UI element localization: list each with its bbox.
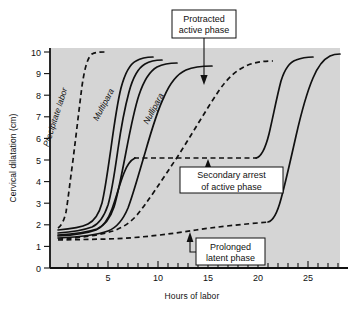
x-tick-label-20: 20 bbox=[253, 273, 263, 283]
cervical-dilatation-chart: 10 9 8 7 6 5 4 3 2 1 0 5 10 15 20 25 Hou… bbox=[0, 0, 361, 312]
y-tick-label-4: 4 bbox=[36, 177, 41, 187]
prolonged-label-line1: Prolonged bbox=[210, 242, 251, 252]
y-tick-label-8: 8 bbox=[36, 91, 41, 101]
y-axis-title: Cervical dilatation (cm) bbox=[8, 114, 18, 203]
x-tick-label-10: 10 bbox=[153, 273, 163, 283]
protracted-label-line1: Protracted bbox=[183, 14, 225, 24]
x-tick-label-5: 5 bbox=[105, 273, 110, 283]
y-tick-label-3: 3 bbox=[36, 199, 41, 209]
y-tick-label-1: 1 bbox=[36, 242, 41, 252]
y-tick-label-0: 0 bbox=[36, 264, 41, 274]
y-tick-label-9: 9 bbox=[36, 69, 41, 79]
y-tick-label-5: 5 bbox=[36, 156, 41, 166]
x-axis-title: Hours of labor bbox=[165, 291, 220, 301]
prolonged-label-line2: latent phase bbox=[206, 253, 255, 263]
protracted-label-line2: active phase bbox=[179, 25, 230, 35]
y-tick-label-7: 7 bbox=[36, 112, 41, 122]
secondary-label-line1: Secondary arrest bbox=[197, 170, 266, 180]
x-tick-label-25: 25 bbox=[303, 273, 313, 283]
secondary-label-line2: of active phase bbox=[201, 182, 262, 192]
y-tick-label-6: 6 bbox=[36, 134, 41, 144]
y-tick-label-2: 2 bbox=[36, 220, 41, 230]
x-tick-label-15: 15 bbox=[203, 273, 213, 283]
y-tick-label-10: 10 bbox=[31, 48, 41, 58]
